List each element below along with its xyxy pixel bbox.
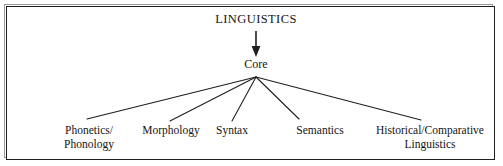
leaf-line-1: Syntax (216, 124, 248, 136)
edge-core-phonetics (87, 77, 256, 119)
diagram-title-linguistics: LINGUISTICS (156, 12, 356, 27)
linguistics-diagram: LINGUISTICS Core Phonetics/ Phonology Mo… (0, 0, 503, 166)
diagram-leaf-historical-comparative-linguistics: Historical/Comparative Linguistics (345, 124, 503, 151)
leaf-line-2: Phonology (29, 138, 149, 152)
leaf-line-1: Semantics (296, 124, 343, 136)
leaf-line-1: Phonetics/ (65, 124, 113, 136)
arrow-down-icon (252, 31, 261, 57)
edge-core-historical (256, 77, 421, 120)
edge-core-semantics (256, 77, 299, 119)
diagram-node-core: Core (206, 57, 306, 71)
core-branch-lines (87, 77, 421, 121)
edge-core-morphology (170, 77, 256, 121)
leaf-line-2: Linguistics (345, 138, 503, 152)
leaf-line-1: Historical/Comparative (376, 124, 484, 136)
